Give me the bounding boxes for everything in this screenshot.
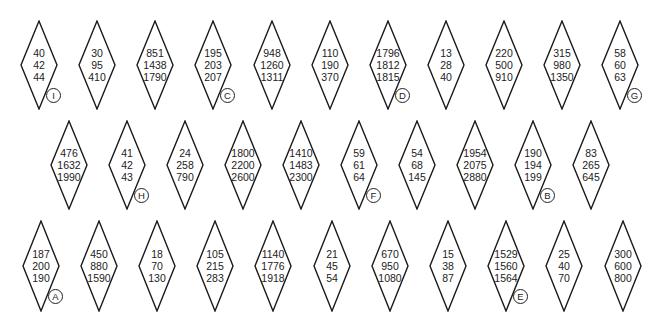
diamond-value: 95	[78, 59, 116, 71]
diamond-value: 40	[20, 47, 58, 59]
diamond-values: 6709501080	[371, 248, 409, 284]
diamond-value: 190	[311, 59, 349, 71]
diamond-value: 24	[166, 147, 204, 159]
diamond-value: 1632	[50, 159, 88, 171]
diamond-value: 2880	[456, 171, 494, 183]
diamond-value: 41	[108, 147, 146, 159]
diamond-label-badge: C	[220, 88, 235, 103]
diamond-node: 195420752880	[456, 120, 494, 210]
diamond-value: 61	[340, 159, 378, 171]
diamond-values: 132840	[427, 47, 465, 83]
diamond-value: 44	[20, 71, 58, 83]
diamond-value: 194	[514, 159, 552, 171]
diamond-value: 1529	[487, 248, 525, 260]
diamond-node: 214554	[313, 220, 351, 312]
diamond-values: 190194199	[514, 147, 552, 183]
diamond-value: 59	[340, 147, 378, 159]
diamond-value: 1954	[456, 147, 494, 159]
diamond-value: 670	[371, 248, 409, 260]
diamond-value: 851	[136, 47, 174, 59]
diamond-label-badge: I	[46, 88, 61, 103]
diamond-value: 105	[196, 248, 234, 260]
diamond-value: 1311	[253, 71, 291, 83]
diamond-node: 3095410	[78, 20, 116, 110]
diamond-node: 24258790	[166, 120, 204, 210]
diamond-value: 40	[545, 260, 583, 272]
diamond-value: 1483	[282, 159, 320, 171]
diamond-value: 2600	[224, 171, 262, 183]
diamond-node: 254070	[545, 220, 583, 312]
diamond-value: 790	[166, 171, 204, 183]
diamond-values: 214554	[313, 248, 351, 284]
diamond-value: 450	[80, 248, 118, 260]
diamond-value: 207	[194, 71, 232, 83]
diamond-node: 300600800	[604, 220, 642, 312]
diamond-values: 195203207	[194, 47, 232, 83]
diamond-values: 83265645	[572, 147, 610, 183]
diamond-values: 24258790	[166, 147, 204, 183]
diamond-value: 1350	[543, 71, 581, 83]
diamond-value: 1260	[253, 59, 291, 71]
diamond-values: 5468145	[398, 147, 436, 183]
diamond-value: 83	[572, 147, 610, 159]
diamond-value: 315	[543, 47, 581, 59]
diamond-value: 1800	[224, 147, 262, 159]
diamond-value: 910	[485, 71, 523, 83]
diamond-values: 114017761918	[254, 248, 292, 284]
diamond-value: 1815	[369, 71, 407, 83]
diamond-node: 180022002600	[224, 120, 262, 210]
diamond-values: 179618121815	[369, 47, 407, 83]
diamond-value: 18	[138, 248, 176, 260]
diamond-value: 950	[371, 260, 409, 272]
diamond-label-badge: A	[48, 289, 63, 304]
diamond-node: 141014832300	[282, 120, 320, 210]
diamond-node: 132840	[427, 20, 465, 110]
diamond-value: 190	[514, 147, 552, 159]
diamond-value: 265	[572, 159, 610, 171]
diamond-label-badge: E	[513, 289, 528, 304]
diamond-value: 203	[194, 59, 232, 71]
diamond-values: 153887	[429, 248, 467, 284]
diamond-value: 1790	[136, 71, 174, 83]
diamond-value: 70	[545, 272, 583, 284]
diamond-value: 54	[313, 272, 351, 284]
diamond-value: 1990	[50, 171, 88, 183]
diamond-value: 948	[253, 47, 291, 59]
diamond-value: 70	[138, 260, 176, 272]
diamond-value: 410	[78, 71, 116, 83]
diamond-value: 30	[78, 47, 116, 59]
diamond-node: 6709501080	[371, 220, 409, 312]
diamond-value: 60	[601, 59, 639, 71]
diamond-node: 47616321990	[50, 120, 88, 210]
diamond-value: 58	[601, 47, 639, 59]
diamond-value: 1776	[254, 260, 292, 272]
diamond-values: 404244	[20, 47, 58, 83]
diamond-value: 500	[485, 59, 523, 71]
diamond-value: 25	[545, 248, 583, 260]
diamond-value: 195	[194, 47, 232, 59]
diamond-values: 300600800	[604, 248, 642, 284]
diamond-value: 43	[108, 171, 146, 183]
diamond-value: 300	[604, 248, 642, 260]
diamond-values: 141014832300	[282, 147, 320, 183]
diamond-value: 145	[398, 171, 436, 183]
diamond-values: 105215283	[196, 248, 234, 284]
diamond-values: 3095410	[78, 47, 116, 83]
diamond-values: 220500910	[485, 47, 523, 83]
diamond-value: 38	[429, 260, 467, 272]
diamond-node: 4508801590	[80, 220, 118, 312]
diamond-value: 476	[50, 147, 88, 159]
diamond-node: 3159801350	[543, 20, 581, 110]
diamond-value: 258	[166, 159, 204, 171]
diamond-label-badge: G	[627, 88, 642, 103]
diamond-value: 42	[20, 59, 58, 71]
diamond-value: 283	[196, 272, 234, 284]
diamond-values: 94812601311	[253, 47, 291, 83]
diamond-value: 87	[429, 272, 467, 284]
diamond-value: 880	[80, 260, 118, 272]
diamond-label-badge: D	[395, 88, 410, 103]
diamond-node: 220500910	[485, 20, 523, 110]
diamond-value: 2200	[224, 159, 262, 171]
diamond-value: 187	[22, 248, 60, 260]
diamond-value: 15	[429, 248, 467, 260]
